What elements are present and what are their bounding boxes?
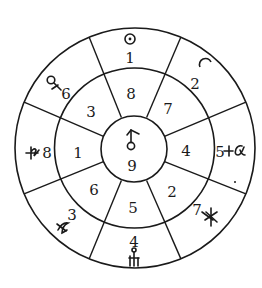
asterisk-cross-icon [202,208,217,226]
middle-ne: 7 [163,100,173,118]
middle-nw: 3 [86,103,96,121]
uranus-like-icon [127,130,139,150]
moon-icon [199,58,211,67]
middle-s: 5 [128,199,138,217]
middle-n: 8 [126,85,136,103]
outer-nw-number: 6 [61,85,71,103]
crossed-curve-icon [57,223,68,233]
venus-like-icon [47,76,61,90]
saturn-like-icon [26,147,39,159]
middle-sw: 6 [89,181,99,199]
outer-sw-number: 3 [67,206,77,224]
middle-se: 2 [167,183,177,201]
outer-n-number: 1 [125,49,135,67]
spoke-ene [165,102,246,136]
center-number: 9 [127,157,137,175]
outer-e-number: 5 [215,143,225,161]
center-cell: 9 [127,130,139,175]
outer-ne-number: 2 [190,75,200,93]
outer-w-number: 8 [42,144,52,162]
alpha-cross-icon [224,146,245,156]
sector-wheel-diagram: 9 8 7 4 2 5 6 1 3 1 2 5 7 [0,0,262,288]
middle-w: 1 [73,144,83,162]
spokes [24,37,246,259]
middle-ring-numbers: 8 7 4 2 5 6 1 3 [73,85,191,217]
sun-icon [125,34,135,44]
middle-e: 4 [181,142,191,160]
outer-se-number: 7 [192,201,202,219]
small-dot-mark [234,181,236,183]
